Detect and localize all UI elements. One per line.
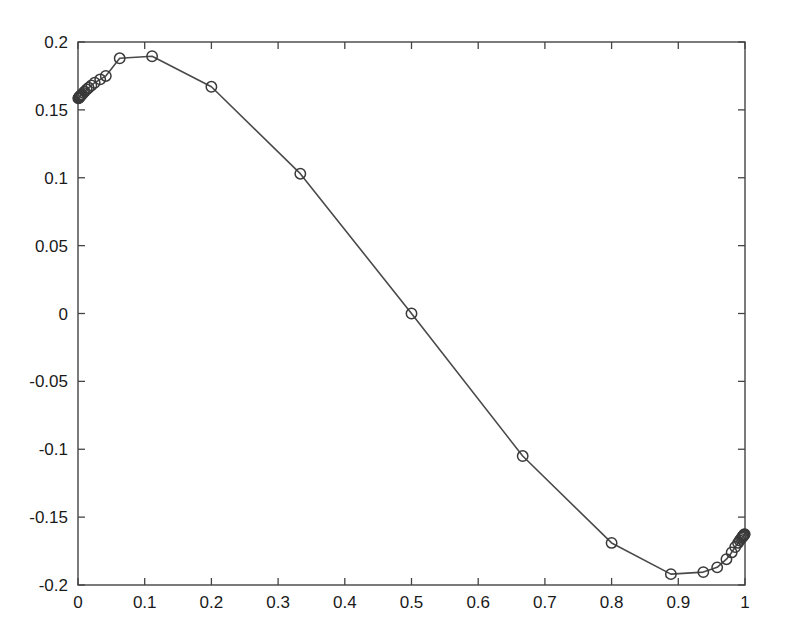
data-line-curve: [78, 56, 744, 574]
x-axis-tick-label: 0.3: [266, 593, 290, 612]
y-axis-tick-label: 0.1: [44, 169, 68, 188]
line-chart: 0.20.150.10.050-0.05-0.1-0.15-0.2 00.10.…: [0, 0, 787, 632]
x-axis-tick-label: 0.4: [333, 593, 357, 612]
x-axis-tick-label: 0: [73, 593, 82, 612]
y-axis-tick-label: 0: [59, 305, 68, 324]
x-axis-tick-label: 0.6: [466, 593, 490, 612]
y-axis-tick-label: 0.05: [35, 237, 68, 256]
y-axis-tick-label: 0.2: [44, 33, 68, 52]
x-axis-tick-label: 0.9: [666, 593, 690, 612]
x-axis-tick-label: 0.1: [133, 593, 157, 612]
figure-container: 0.20.150.10.050-0.05-0.1-0.15-0.2 00.10.…: [0, 0, 787, 632]
x-axis-tick-label: 0.8: [600, 593, 624, 612]
tick-labels-y: 0.20.150.10.050-0.05-0.1-0.15-0.2: [29, 33, 68, 595]
y-axis-tick-label: -0.15: [29, 508, 68, 527]
x-axis-tick-label: 0.5: [400, 593, 424, 612]
y-axis-tick-label: -0.05: [29, 372, 68, 391]
x-axis-tick-label: 0.7: [533, 593, 557, 612]
x-axis-tick-label: 0.2: [200, 593, 224, 612]
x-axis-tick-label: 1: [740, 593, 749, 612]
data-markers: [73, 51, 750, 579]
tick-labels-x: 00.10.20.30.40.50.60.70.80.91: [73, 593, 749, 612]
y-axis-tick-label: 0.15: [35, 101, 68, 120]
y-axis-tick-label: -0.2: [39, 576, 68, 595]
y-axis-tick-label: -0.1: [39, 440, 68, 459]
